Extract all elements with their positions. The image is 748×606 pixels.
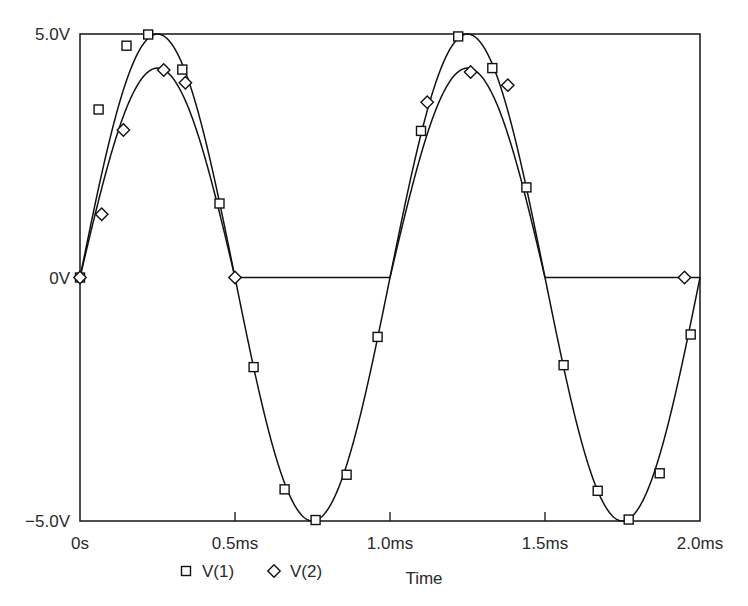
marker-v1 [624, 515, 633, 524]
marker-v1 [249, 363, 258, 372]
legend-marker-square [182, 567, 191, 576]
x-tick-label: 2.0ms [677, 534, 723, 553]
chart-legend: V(1)V(2) [182, 562, 323, 581]
marker-v2 [229, 271, 241, 283]
legend-label: V(2) [290, 562, 322, 581]
marker-v1 [373, 332, 382, 341]
waveform-plot: 5.0V0V−5.0V 0s0.5ms1.0ms1.5ms2.0ms V(1)V… [0, 0, 748, 606]
x-axis-title: Time [405, 569, 442, 588]
marker-v2 [96, 208, 108, 220]
marker-v1 [94, 105, 103, 114]
marker-v1 [178, 65, 187, 74]
x-tick-label: 1.5ms [522, 534, 568, 553]
legend-marker-diamond [268, 565, 280, 577]
x-tick-label: 0.5ms [212, 534, 258, 553]
marker-v1 [417, 126, 426, 135]
marker-v1 [280, 485, 289, 494]
marker-v1 [559, 361, 568, 370]
marker-v1 [488, 64, 497, 73]
marker-v2 [678, 271, 690, 283]
data-traces [80, 34, 700, 521]
y-tick-label: 0V [49, 269, 70, 288]
marker-v1 [215, 199, 224, 208]
x-axis-labels: 0s0.5ms1.0ms1.5ms2.0ms [71, 534, 723, 553]
marker-v2 [502, 79, 514, 91]
marker-v1 [122, 41, 131, 50]
x-tick-label: 0s [71, 534, 89, 553]
trace-v2 [80, 68, 700, 277]
y-tick-label: 5.0V [35, 25, 71, 44]
y-axis-labels: 5.0V0V−5.0V [25, 25, 71, 531]
marker-v1 [593, 486, 602, 495]
marker-v1 [454, 32, 463, 41]
y-tick-label: −5.0V [25, 512, 71, 531]
marker-v1 [342, 470, 351, 479]
x-axis-ticks [235, 512, 545, 521]
marker-v2 [158, 64, 170, 76]
chart-canvas: 5.0V0V−5.0V 0s0.5ms1.0ms1.5ms2.0ms V(1)V… [0, 0, 748, 606]
marker-v2 [117, 124, 129, 136]
marker-v2 [179, 77, 191, 89]
marker-v1 [522, 183, 531, 192]
marker-v1 [144, 30, 153, 39]
legend-label: V(1) [202, 562, 234, 581]
x-tick-label: 1.0ms [367, 534, 413, 553]
marker-v1 [655, 469, 664, 478]
marker-v1 [311, 516, 320, 525]
marker-v1 [686, 330, 695, 339]
